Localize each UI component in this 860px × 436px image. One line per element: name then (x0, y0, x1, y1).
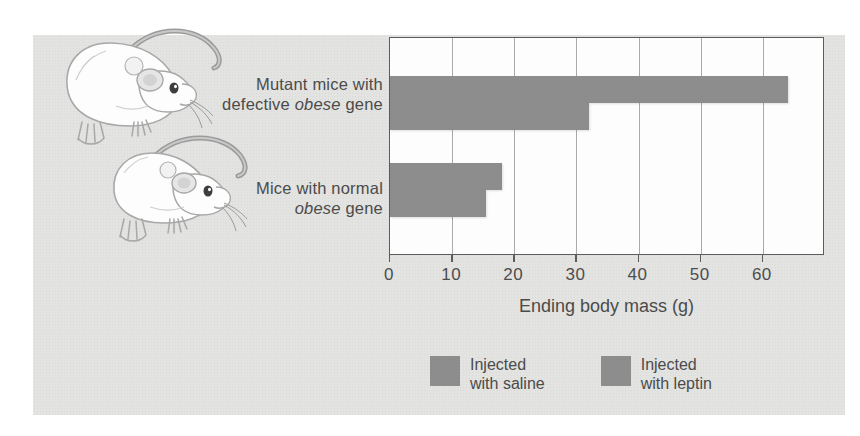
x-tick-label-30: 30 (565, 265, 585, 285)
category-label-normal: Mice with normal obese gene (165, 178, 383, 218)
x-tick-60 (762, 255, 763, 262)
bar-mutant-leptin (390, 103, 589, 130)
bar-normal-leptin (390, 190, 486, 217)
gridline-50 (701, 38, 702, 254)
legend-swatch-saline (430, 356, 460, 386)
x-tick-20 (513, 255, 514, 262)
category-label-mutant-gene: obese (295, 95, 341, 113)
x-tick-0 (389, 255, 390, 262)
category-label-mutant-line1: Mutant mice with (256, 75, 383, 93)
legend-item-leptin[interactable]: Injected with leptin (601, 355, 712, 393)
x-tick-label-10: 10 (441, 265, 461, 285)
leptin-experiment-figure: Mutant mice with defective obese gene Mi… (0, 0, 860, 436)
x-tick-label-50: 50 (690, 265, 710, 285)
gridline-40 (639, 38, 640, 254)
x-tick-30 (575, 255, 576, 262)
gridline-10 (452, 38, 453, 254)
x-tick-label-20: 20 (503, 265, 523, 285)
x-tick-40 (638, 255, 639, 262)
gridline-30 (576, 38, 577, 254)
gridline-60 (763, 38, 764, 254)
legend-label-saline: Injected with saline (470, 355, 545, 393)
x-tick-label-0: 0 (384, 265, 394, 285)
legend-label-leptin: Injected with leptin (641, 355, 712, 393)
category-label-mutant: Mutant mice with defective obese gene (165, 74, 383, 114)
category-label-normal-gene: obese (295, 199, 341, 217)
category-label-normal-line2-post: gene (341, 199, 383, 217)
x-tick-label-60: 60 (752, 265, 772, 285)
x-axis-title: Ending body mass (g) (389, 296, 824, 317)
legend-item-saline[interactable]: Injected with saline (430, 355, 545, 393)
x-tick-10 (451, 255, 452, 262)
category-label-mutant-line2-pre: defective (222, 95, 295, 113)
bar-chart-plot-area (389, 37, 824, 255)
gridline-20 (514, 38, 515, 254)
x-tick-label-40: 40 (628, 265, 648, 285)
x-tick-50 (700, 255, 701, 262)
category-label-normal-line1: Mice with normal (256, 179, 383, 197)
category-label-mutant-line2-post: gene (341, 95, 383, 113)
chart-legend: Injected with saline Injected with lepti… (430, 355, 712, 393)
bar-mutant-saline (390, 76, 788, 103)
legend-swatch-leptin (601, 356, 631, 386)
bar-normal-saline (390, 163, 502, 190)
